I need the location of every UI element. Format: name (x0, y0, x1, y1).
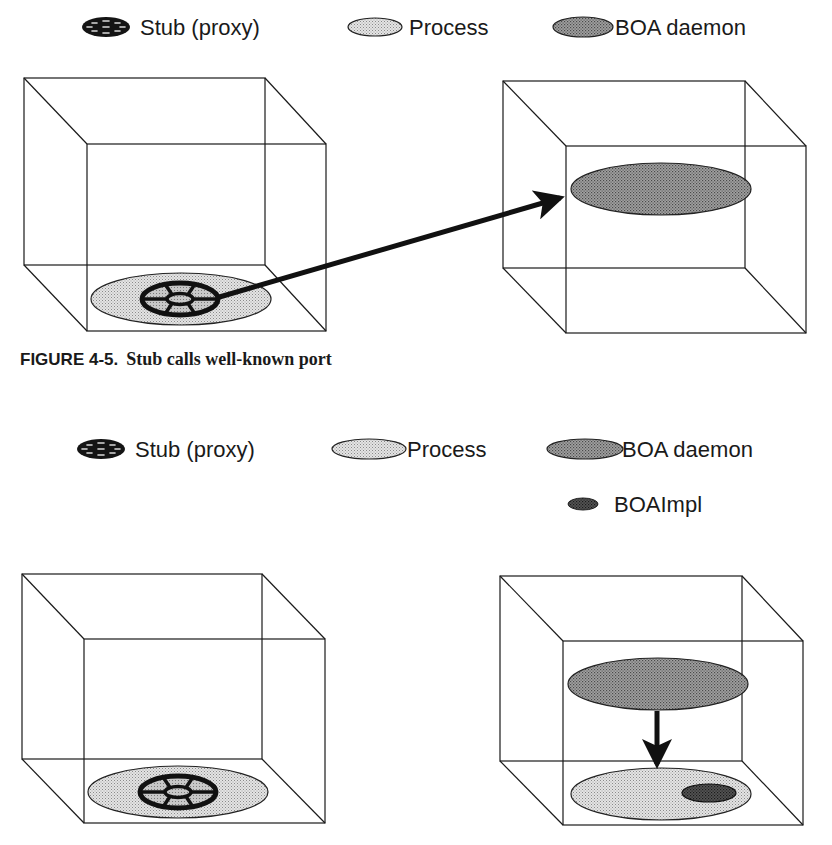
boa-impl-ellipse (682, 784, 736, 802)
daemon-ellipse-icon (553, 17, 613, 37)
daemon-ellipse-icon (547, 439, 623, 459)
legend-item-process: Process (348, 15, 488, 40)
figure-caption: FIGURE 4-5.Stub calls well-known port (20, 349, 332, 370)
boa-daemon-ellipse (568, 658, 748, 710)
process-ellipse-icon (348, 18, 402, 36)
figure-title: Stub calls well-known port (126, 349, 332, 369)
process-ellipse-icon (332, 439, 406, 459)
legend-item-stub: Stub (proxy) (82, 15, 260, 40)
legend-label-impl: BOAImpl (614, 492, 702, 517)
legend-label-stub: Stub (proxy) (140, 15, 260, 40)
legend-label-daemon: BOA daemon (615, 15, 746, 40)
legend-item-daemon: BOA daemon (553, 15, 746, 40)
legend-item-stub: Stub (proxy) (77, 437, 255, 462)
legend-label-process: Process (409, 15, 488, 40)
stub-proxy-wheel (140, 776, 216, 808)
legend-bottom: Stub (proxy) Process BOA daemon BOAImpl (77, 437, 753, 517)
legend-item-daemon: BOA daemon (547, 437, 753, 462)
stub-wheel-icon (82, 17, 130, 37)
boa-daemon-ellipse (571, 163, 751, 215)
legend-item-process: Process (332, 437, 486, 462)
figure-bottom: Stub (proxy) Process BOA daemon BOAImpl (22, 437, 803, 825)
legend-label-daemon: BOA daemon (622, 437, 753, 462)
diagram-canvas: Stub (proxy) Process BOA daemon (0, 0, 832, 845)
legend-item-impl: BOAImpl (568, 492, 702, 517)
box-back-face (22, 574, 262, 759)
impl-ellipse-icon (568, 498, 598, 510)
figure-top: Stub (proxy) Process BOA daemon (24, 15, 806, 333)
legend-label-stub: Stub (proxy) (135, 437, 255, 462)
legend-top: Stub (proxy) Process BOA daemon (82, 15, 746, 40)
stub-wheel-icon (77, 439, 125, 459)
figure-number: FIGURE 4-5. (20, 350, 118, 369)
legend-label-process: Process (407, 437, 486, 462)
box-back-face (24, 78, 265, 265)
call-arrow (216, 198, 560, 298)
stub-proxy-wheel (142, 283, 218, 315)
